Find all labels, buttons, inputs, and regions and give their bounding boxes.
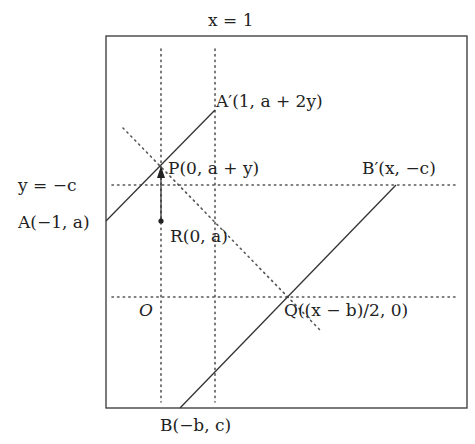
label-y-eq-neg-c: y = −c	[17, 175, 76, 195]
label-point-P: P(0, a + y)	[168, 158, 259, 178]
label-x-eq-1: x = 1	[208, 10, 253, 30]
label-point-B: B(−b, c)	[160, 415, 231, 435]
point-R-dot	[158, 218, 163, 223]
label-point-A-prime: A′(1, a + 2y)	[215, 91, 323, 111]
label-point-Q: Q((x − b)/2, 0)	[284, 300, 408, 320]
diagram-canvas: x = 1 y = −c A(−1, a) A′(1, a + 2y) P(0,…	[0, 0, 475, 444]
geometry-figure: x = 1 y = −c A(−1, a) A′(1, a + 2y) P(0,…	[0, 0, 475, 444]
label-point-B-prime: B′(x, −c)	[362, 158, 436, 178]
label-point-R: R(0, a)	[170, 226, 228, 246]
label-origin-O: O	[139, 300, 153, 320]
label-point-A: A(−1, a)	[17, 212, 90, 232]
